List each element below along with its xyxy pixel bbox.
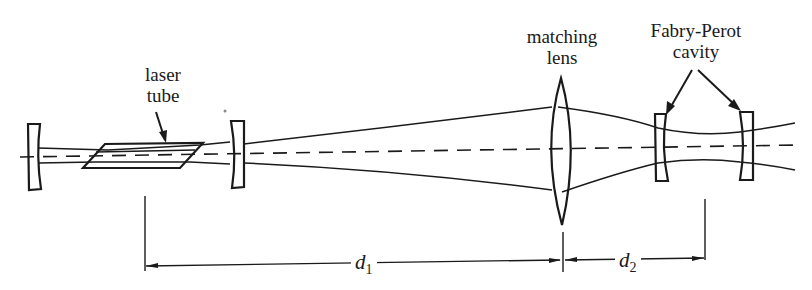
d2-symbol: d — [619, 248, 630, 272]
matching-lens-label-line1: matching — [512, 26, 612, 47]
fp-arrow-right-shaft — [698, 70, 737, 107]
fabry-perot-label: Fabry-Perot cavity — [640, 20, 752, 62]
d2-subscript: 2 — [630, 260, 637, 275]
d1-subscript: 1 — [366, 262, 373, 277]
fabry-perot-label-line1: Fabry-Perot — [640, 20, 752, 41]
fp-arrow-left-shaft — [669, 70, 692, 110]
laser-beam-bottom — [38, 162, 230, 164]
beam-converging-top — [558, 107, 795, 134]
laser-tube-label-line1: laser — [128, 64, 198, 85]
beam-expanding-bottom — [244, 163, 552, 190]
matching-lens-label-line2: lens — [512, 47, 612, 68]
d1-label: d1 — [351, 250, 377, 278]
d1-symbol: d — [355, 250, 366, 274]
laser-tube-label-line2: tube — [128, 85, 198, 106]
fabry-perot-label-line2: cavity — [640, 41, 752, 62]
laser-tube-arrow-head — [159, 130, 167, 143]
d2-label: d2 — [615, 248, 641, 276]
speck-artifact — [224, 110, 227, 113]
beam-expanding-top — [244, 107, 552, 144]
laser-tube-label: laser tube — [128, 64, 198, 106]
matching-lens — [551, 78, 571, 225]
matching-lens-label: matching lens — [512, 26, 612, 68]
beam-converging-bottom — [562, 160, 795, 192]
